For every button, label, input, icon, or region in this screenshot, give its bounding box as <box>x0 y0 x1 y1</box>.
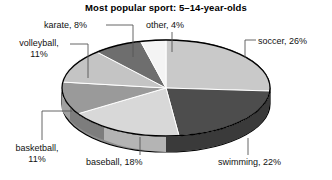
pie-label-basketball-line2: 11% <box>28 154 45 164</box>
pie-chart-figure: Most popular sport: 5–14-year-olds <box>0 0 332 180</box>
pie-label-soccer: soccer, 26% <box>258 36 307 47</box>
pie-label-basketball-line1: basketball, <box>15 143 58 153</box>
pie-label-karate: karate, 8% <box>44 20 87 31</box>
pie-label-volleyball-line1: volleyball, <box>19 38 59 48</box>
leader-line-soccer <box>245 40 256 58</box>
pie-label-volleyball: volleyball, 11% <box>8 38 70 60</box>
pie-label-volleyball-line2: 11% <box>30 49 47 59</box>
pie-label-baseball: baseball, 18% <box>86 157 143 168</box>
pie-slice-soccer[interactable] <box>166 40 270 91</box>
pie-label-basketball: basketball, 11% <box>6 143 68 165</box>
pie-top-face <box>61 40 270 136</box>
pie-label-swimming: swimming, 22% <box>218 157 281 168</box>
pie-label-other: other, 4% <box>146 20 184 31</box>
